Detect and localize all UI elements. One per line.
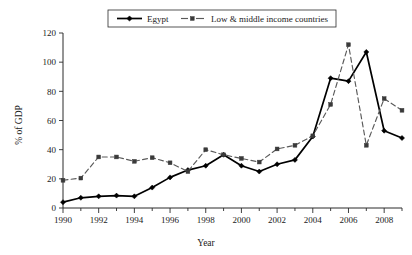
line-chart: Egypt Low & middle income countries Year… — [0, 0, 412, 255]
data-point-lmic — [257, 160, 261, 164]
y-axis-tick-label: 0 — [52, 203, 57, 213]
data-point-lmic — [240, 157, 244, 161]
legend-marker-square-icon — [190, 17, 194, 21]
data-point-lmic — [222, 153, 226, 157]
data-point-lmic — [186, 170, 190, 174]
x-axis-tick-label: 2008 — [375, 215, 394, 225]
data-point-lmic — [115, 155, 119, 159]
x-axis-title: Year — [197, 238, 215, 248]
data-point-egypt — [382, 128, 387, 133]
x-axis-tick-label: 2004 — [304, 215, 323, 225]
data-point-lmic — [400, 108, 404, 112]
chart-container: Egypt Low & middle income countries Year… — [0, 0, 412, 255]
x-axis-tick-label: 1994 — [125, 215, 144, 225]
x-axis-tick-label: 2000 — [232, 215, 251, 225]
data-point-lmic — [364, 143, 368, 147]
data-point-egypt — [275, 162, 280, 167]
x-axis-tick-label: 1990 — [54, 215, 73, 225]
chart-legend: Egypt Low & middle income countries — [108, 10, 336, 27]
x-axis-tick-label: 1998 — [197, 215, 216, 225]
data-point-egypt — [78, 195, 83, 200]
legend-label-egypt: Egypt — [147, 14, 169, 24]
legend-label-lmic: Low & middle income countries — [211, 14, 328, 24]
y-axis-tick-label: 100 — [43, 57, 57, 67]
data-point-lmic — [347, 43, 351, 47]
y-axis-tick-label: 60 — [47, 116, 57, 126]
data-point-lmic — [329, 103, 333, 107]
data-point-egypt — [114, 193, 119, 198]
data-point-lmic — [204, 148, 208, 152]
x-axis-tick-label: 2006 — [339, 215, 358, 225]
x-axis-tick-label: 1992 — [90, 215, 108, 225]
data-point-egypt — [328, 76, 333, 81]
y-axis-tick-label: 80 — [47, 87, 57, 97]
data-point-lmic — [311, 134, 315, 138]
x-axis-tick-label: 1996 — [161, 215, 180, 225]
data-point-lmic — [132, 159, 136, 163]
y-axis-tick-label: 20 — [47, 174, 57, 184]
y-axis-tick-label: 120 — [43, 28, 57, 38]
data-point-lmic — [150, 156, 154, 160]
data-point-lmic — [97, 155, 101, 159]
data-point-lmic — [275, 147, 279, 151]
series-line-egypt — [63, 52, 402, 202]
data-point-lmic — [79, 176, 83, 180]
data-point-egypt — [257, 169, 262, 174]
data-point-lmic — [382, 97, 386, 101]
plot-area: 0204060801001201990199219941996199820002… — [43, 28, 405, 225]
data-point-lmic — [168, 161, 172, 165]
data-point-lmic — [293, 143, 297, 147]
data-point-egypt — [400, 136, 405, 141]
y-axis-title: % of GDP — [14, 105, 24, 145]
data-point-egypt — [96, 194, 101, 199]
data-point-lmic — [61, 178, 65, 182]
x-axis-tick-label: 2002 — [268, 215, 286, 225]
data-point-egypt — [61, 200, 66, 205]
y-axis-tick-label: 40 — [47, 145, 57, 155]
